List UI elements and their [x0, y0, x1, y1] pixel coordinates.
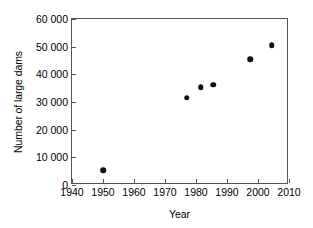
y-axis-tick-mark — [72, 157, 76, 158]
data-point — [100, 168, 106, 174]
y-axis-tick-label: 40 000 — [36, 68, 68, 80]
x-axis-tick-label: 1940 — [60, 186, 83, 198]
plot-area: 010 00020 00030 00040 00050 00060 000194… — [71, 18, 288, 184]
x-axis-tick-mark — [72, 179, 73, 183]
data-point — [210, 82, 216, 88]
x-axis-tick-label: 2000 — [246, 186, 269, 198]
y-axis-tick-mark — [72, 102, 76, 103]
y-axis-tick-label: 10 000 — [36, 151, 68, 163]
y-axis-tick-mark — [72, 47, 76, 48]
x-axis-tick-mark — [289, 179, 290, 183]
x-axis-title: Year — [71, 208, 288, 220]
y-axis-tick-mark — [72, 130, 76, 131]
x-axis-tick-label: 1980 — [184, 186, 207, 198]
x-axis-tick-mark — [103, 179, 104, 183]
data-point — [198, 84, 204, 90]
scatter-chart-figure: Number of large dams 010 00020 00030 000… — [0, 0, 313, 228]
x-axis-tick-mark — [165, 179, 166, 183]
y-axis-tick-label: 20 000 — [36, 124, 68, 136]
x-axis-tick-label: 1970 — [153, 186, 176, 198]
x-axis-tick-label: 2010 — [277, 186, 300, 198]
data-point — [184, 95, 190, 101]
y-axis-title: Number of large dams — [12, 32, 24, 172]
y-axis-tick-label: 50 000 — [36, 41, 68, 53]
y-axis-tick-label: 30 000 — [36, 96, 68, 108]
x-axis-tick-label: 1990 — [215, 186, 238, 198]
data-point — [269, 42, 275, 48]
x-axis-tick-label: 1950 — [91, 186, 114, 198]
x-axis-tick-label: 1960 — [122, 186, 145, 198]
x-axis-tick-mark — [196, 179, 197, 183]
x-axis-tick-mark — [134, 179, 135, 183]
y-axis-tick-label: 60 000 — [36, 13, 68, 25]
data-point — [248, 56, 254, 62]
y-axis-tick-mark — [72, 19, 76, 20]
x-axis-tick-mark — [227, 179, 228, 183]
y-axis-tick-mark — [72, 74, 76, 75]
x-axis-tick-mark — [258, 179, 259, 183]
